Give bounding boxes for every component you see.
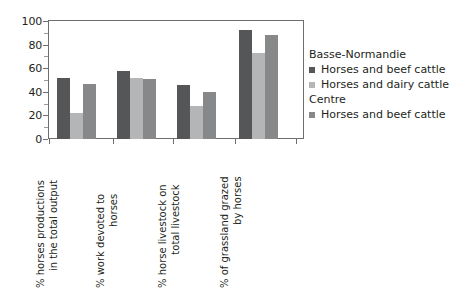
x-category-label-line: % work devoted to (95, 194, 108, 288)
x-category-label: % horse livestock ontotal livestock (157, 184, 182, 288)
legend-item-label: Horses and beef cattle (321, 107, 446, 122)
bar (252, 53, 265, 139)
x-tick-mark (113, 139, 114, 144)
y-tick-mark (43, 68, 48, 69)
y-tick-mark (43, 21, 48, 22)
bar (190, 106, 203, 139)
x-tick-mark (173, 139, 174, 144)
legend-group-heading: Basse-Normandie (309, 47, 459, 62)
x-category-label-line: in the total output (48, 180, 61, 288)
y-tick-label: 80 (0, 40, 42, 51)
y-minor-tick-mark (44, 80, 48, 81)
y-tick-label: 60 (0, 63, 42, 74)
bar (130, 78, 143, 139)
x-category-label-line: % of grassland grazed (219, 176, 232, 288)
bar (177, 85, 190, 139)
bar-group (177, 21, 216, 139)
x-category-label-line: total livestock (170, 184, 183, 288)
x-category-label: % horses productionsin the total output (35, 180, 60, 288)
x-category-label-line: % horses productions (35, 180, 48, 288)
bar (143, 79, 156, 139)
y-tick-label: 40 (0, 87, 42, 98)
bar (83, 84, 96, 139)
legend-group-heading: Centre (309, 92, 459, 107)
y-tick-mark (43, 92, 48, 93)
bar (265, 35, 278, 139)
y-minor-tick-mark (44, 127, 48, 128)
legend-item[interactable]: Horses and beef cattle (309, 62, 459, 77)
legend-swatch-icon (309, 112, 315, 118)
y-minor-tick-mark (44, 56, 48, 57)
bar (57, 78, 70, 139)
bar (239, 30, 252, 139)
bar (70, 113, 83, 139)
x-category-label: % of grassland grazedby horses (219, 176, 244, 288)
chart-legend: Basse-NormandieHorses and beef cattleHor… (309, 47, 459, 122)
y-minor-tick-mark (44, 104, 48, 105)
y-tick-mark (43, 45, 48, 46)
legend-item[interactable]: Horses and dairy cattle (309, 77, 459, 92)
bar-group (117, 21, 156, 139)
legend-item-label: Horses and dairy cattle (321, 77, 449, 92)
x-category-label-line: horses (108, 194, 121, 288)
y-minor-tick-mark (44, 33, 48, 34)
legend-item[interactable]: Horses and beef cattle (309, 107, 459, 122)
x-tick-mark (49, 139, 50, 144)
y-tick-label: 100 (0, 16, 42, 27)
y-tick-label: 0 (0, 134, 42, 145)
legend-item-label: Horses and beef cattle (321, 62, 446, 77)
x-tick-mark (296, 139, 297, 144)
bar-group (57, 21, 96, 139)
y-tick-label: 20 (0, 110, 42, 121)
y-axis: 100806040200 (0, 13, 42, 146)
x-category-label-line: by horses (232, 176, 245, 288)
bar (203, 92, 216, 139)
y-tick-mark (43, 115, 48, 116)
bar-group (239, 21, 278, 139)
y-tick-mark (43, 139, 48, 140)
x-tick-mark (235, 139, 236, 144)
x-category-label: % work devoted tohorses (95, 194, 120, 288)
bar (117, 71, 130, 139)
legend-swatch-icon (309, 82, 315, 88)
legend-swatch-icon (309, 67, 315, 73)
bars-layer (49, 21, 303, 139)
x-category-label-line: % horse livestock on (157, 184, 170, 288)
